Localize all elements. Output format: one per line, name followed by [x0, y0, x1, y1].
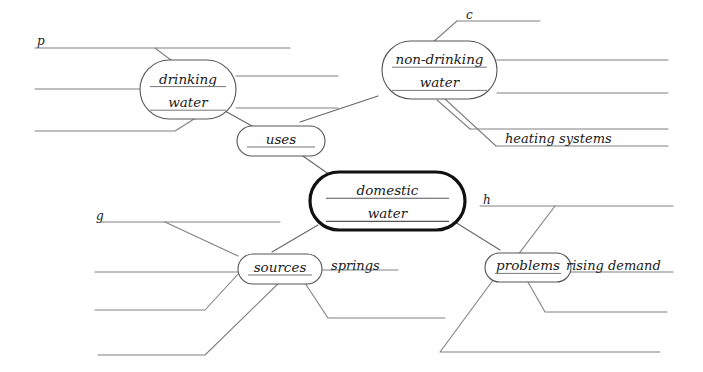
label-c: c [466, 8, 473, 22]
node-drinking-water[interactable]: drinkingwater [140, 60, 236, 119]
node-label-non-drinking-water-line1: non-drinking [395, 51, 483, 67]
node-label-sources: sources [254, 259, 307, 275]
node-label-domestic-water-line2: water [368, 205, 409, 221]
node-problems[interactable]: problems [485, 253, 571, 282]
node-label-problems: problems [496, 257, 560, 273]
node-label-uses: uses [266, 131, 297, 147]
node-label-domestic-water-line1: domestic [357, 182, 419, 198]
label-rising-demand: rising demand [566, 258, 661, 273]
node-label-drinking-water-line1: drinking [159, 71, 217, 87]
label-h: h [483, 193, 491, 207]
node-label-drinking-water-line2: water [168, 94, 209, 110]
label-g: g [96, 209, 104, 223]
node-sources[interactable]: sources [238, 254, 322, 284]
node-label-non-drinking-water-line2: water [420, 74, 461, 90]
node-domestic-water[interactable]: domesticwater [310, 172, 465, 230]
label-p: p [37, 34, 45, 48]
node-uses[interactable]: uses [237, 126, 325, 156]
mindmap-canvas: drinkingwaternon-drinkingwaterusessource… [0, 0, 703, 372]
label-heating-systems: heating systems [505, 131, 612, 146]
label-springs: springs [331, 258, 380, 273]
mindmap-diagram: drinkingwaternon-drinkingwaterusessource… [0, 0, 703, 372]
node-non-drinking-water[interactable]: non-drinkingwater [382, 41, 497, 99]
